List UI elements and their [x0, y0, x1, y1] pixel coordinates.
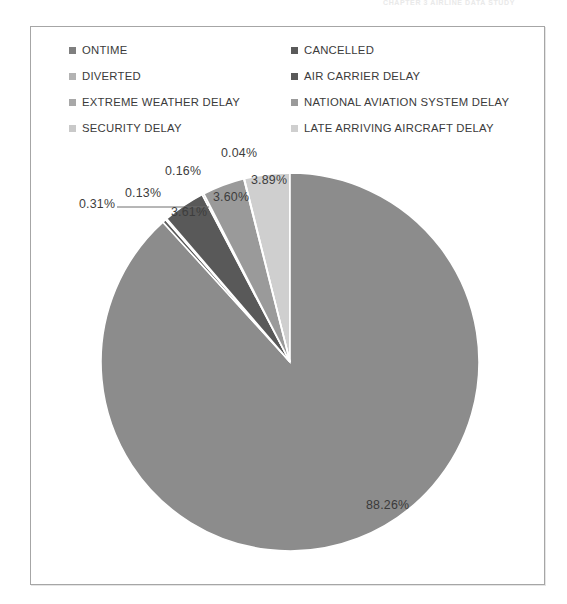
legend-swatch-icon [291, 73, 298, 80]
legend-row: DIVERTED AIR CARRIER DELAY [69, 63, 529, 89]
legend-row: EXTREME WEATHER DELAY NATIONAL AVIATION … [69, 89, 529, 115]
slice-label-cancelled: 0.13% [125, 186, 161, 200]
legend-label: AIR CARRIER DELAY [304, 70, 420, 82]
legend-item-security-delay[interactable]: SECURITY DELAY [69, 122, 291, 134]
pie-slice[interactable] [202, 194, 290, 362]
legend-item-cancelled[interactable]: CANCELLED [291, 44, 529, 56]
legend-swatch-icon [291, 47, 298, 54]
slice-label-security: 0.04% [221, 146, 257, 160]
legend-swatch-icon [69, 47, 76, 54]
legend-item-air-carrier-delay[interactable]: AIR CARRIER DELAY [291, 70, 529, 82]
slice-label-national-aviation: 3.60% [213, 190, 249, 204]
pie-slice[interactable] [166, 219, 290, 362]
legend-swatch-icon [69, 125, 76, 132]
legend-swatch-icon [69, 73, 76, 80]
legend-label: DIVERTED [82, 70, 141, 82]
legend-row: SECURITY DELAY LATE ARRIVING AIRCRAFT DE… [69, 115, 529, 141]
pie-slice[interactable] [163, 220, 290, 362]
slice-label-diverted: 0.31% [79, 197, 115, 211]
slice-label-extreme-weather: 0.16% [165, 164, 201, 178]
legend-label: SECURITY DELAY [82, 122, 182, 134]
slice-label-late-arriving: 3.89% [251, 173, 287, 187]
pie-slices [101, 173, 479, 551]
figure-root: CHAPTER 3 AIRLINE DATA STUDY ONTIME CANC… [0, 0, 567, 604]
legend-swatch-icon [291, 125, 298, 132]
legend-item-ontime[interactable]: ONTIME [69, 44, 291, 56]
legend-item-diverted[interactable]: DIVERTED [69, 70, 291, 82]
legend-label: LATE ARRIVING AIRCRAFT DELAY [304, 122, 494, 134]
legend-label: EXTREME WEATHER DELAY [82, 96, 240, 108]
chart-legend: ONTIME CANCELLED DIVERTED AIR CARRIER DE… [69, 37, 529, 141]
pie-slice[interactable] [167, 195, 290, 362]
legend-label: ONTIME [82, 44, 127, 56]
legend-swatch-icon [69, 99, 76, 106]
slice-label-air-carrier: 3.61% [171, 205, 207, 219]
legend-item-national-aviation-system-delay[interactable]: NATIONAL AVIATION SYSTEM DELAY [291, 96, 529, 108]
pie-slice[interactable] [204, 179, 290, 362]
legend-item-late-arriving-aircraft-delay[interactable]: LATE ARRIVING AIRCRAFT DELAY [291, 122, 529, 134]
pie-slice[interactable] [244, 179, 290, 362]
chart-frame: ONTIME CANCELLED DIVERTED AIR CARRIER DE… [30, 26, 545, 585]
pie-slice[interactable] [244, 173, 290, 362]
legend-swatch-icon [291, 99, 298, 106]
legend-row: ONTIME CANCELLED [69, 37, 529, 63]
running-header: CHAPTER 3 AIRLINE DATA STUDY [383, 0, 515, 6]
legend-item-extreme-weather-delay[interactable]: EXTREME WEATHER DELAY [69, 96, 291, 108]
legend-label: NATIONAL AVIATION SYSTEM DELAY [304, 96, 509, 108]
legend-label: CANCELLED [304, 44, 374, 56]
slice-label-ontime: 88.26% [366, 498, 409, 512]
pie-slice[interactable] [101, 173, 479, 551]
